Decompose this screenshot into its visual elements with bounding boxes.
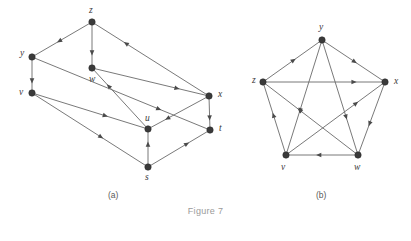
panel-b-edge-group xyxy=(264,42,384,158)
figure-drawing: zywvxuts yzxvw (a)(b) xyxy=(0,0,411,241)
node-label-a-v: v xyxy=(19,87,24,97)
edge-x-to-u xyxy=(151,98,206,128)
node-label-a-u: u xyxy=(145,113,150,123)
node-label-a-z: z xyxy=(88,5,93,15)
node-label-b-w: w xyxy=(354,162,361,172)
edge-y-to-v xyxy=(287,43,321,152)
node-label-b-z: z xyxy=(251,75,256,85)
node-a-v xyxy=(29,90,35,96)
node-a-t xyxy=(207,127,213,133)
arrowhead-v-to-z xyxy=(272,113,276,119)
edge-x-to-z xyxy=(95,24,207,95)
arrowhead-v-to-s xyxy=(98,134,104,139)
edge-y-to-t xyxy=(35,58,207,129)
node-label-b-y: y xyxy=(318,22,324,32)
node-label-a-y: y xyxy=(19,48,25,58)
edge-v-to-u xyxy=(35,94,145,128)
arrowhead-x-to-t xyxy=(207,115,212,120)
node-label-a-x: x xyxy=(217,89,223,99)
figure-caption: Figure 7 xyxy=(0,206,411,216)
panel-a-edge-group xyxy=(30,24,212,166)
arrowhead-w-to-x xyxy=(174,86,180,90)
node-label-b-v: v xyxy=(281,162,286,172)
panel-label-b: (b) xyxy=(316,190,327,200)
arrowhead-y-to-x xyxy=(351,58,357,63)
arrowhead-v-to-x xyxy=(353,102,359,107)
arrowhead-z-to-x xyxy=(351,80,356,85)
figure-container: zywvxuts yzxvw (a)(b) Figure 7 xyxy=(0,0,411,241)
edge-x-to-w xyxy=(359,85,384,152)
arrowhead-y-to-v xyxy=(30,78,35,83)
node-b-y xyxy=(319,37,325,43)
node-a-u xyxy=(145,126,151,132)
edge-x-to-t xyxy=(209,99,210,127)
edge-s-to-t xyxy=(151,132,208,166)
arrowhead-x-to-z xyxy=(124,42,130,47)
arrowhead-s-to-t xyxy=(183,142,189,147)
node-a-x xyxy=(206,93,212,99)
node-label-a-w: w xyxy=(89,74,96,84)
edge-y-to-w xyxy=(323,43,357,152)
edge-v-to-x xyxy=(289,84,383,153)
node-label-a-s: s xyxy=(145,172,149,182)
arrowhead-v-to-u xyxy=(102,113,108,117)
node-b-x xyxy=(382,79,388,85)
edge-v-to-z xyxy=(264,85,285,152)
node-b-w xyxy=(355,152,361,158)
node-label-a-t: t xyxy=(219,123,222,133)
arrowhead-y-to-w xyxy=(343,114,347,120)
node-b-z xyxy=(260,79,266,85)
node-b-v xyxy=(283,152,289,158)
arrowhead-z-to-w xyxy=(90,50,95,55)
panel-b-node-group: yzxvw xyxy=(251,22,399,172)
arrowhead-x-to-w xyxy=(368,121,372,127)
arrowhead-z-to-y xyxy=(290,59,296,64)
edge-v-to-s xyxy=(35,95,146,166)
node-a-z xyxy=(89,19,95,25)
panel-label-group: (a)(b) xyxy=(108,190,327,200)
node-a-s xyxy=(145,164,151,170)
edge-z-to-y xyxy=(35,24,89,56)
panel-label-a: (a) xyxy=(108,190,119,200)
arrowhead-s-to-u xyxy=(146,142,151,147)
node-a-w xyxy=(89,65,95,71)
edge-w-to-z xyxy=(266,84,356,153)
arrowhead-w-to-v xyxy=(316,153,321,158)
node-label-b-x: x xyxy=(393,76,399,86)
edge-w-to-x xyxy=(95,69,206,96)
node-a-y xyxy=(29,54,35,60)
